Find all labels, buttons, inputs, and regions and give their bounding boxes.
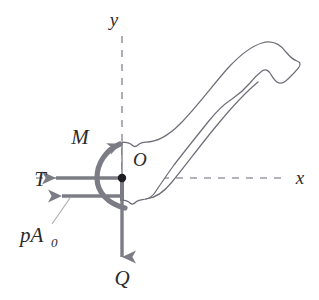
pressure-label-text: pA — [18, 223, 44, 247]
moment-label-M: M — [70, 125, 90, 149]
pressure-label-pA0: pA 0 — [18, 223, 58, 250]
hook-outline-path — [122, 42, 300, 204]
hook-body — [122, 42, 300, 204]
x-axis-label: x — [295, 167, 305, 188]
tension-label-T: T — [34, 167, 47, 191]
shear-label-Q: Q — [114, 266, 129, 290]
pressure-leader-line — [52, 198, 70, 224]
origin-point — [118, 174, 126, 182]
pressure-label-subscript: 0 — [51, 235, 58, 250]
figure-canvas: y x O M T pA 0 Q — [0, 0, 319, 300]
free-body-diagram: y x O M T pA 0 Q — [0, 0, 319, 300]
y-axis-label: y — [108, 9, 119, 30]
origin-label: O — [133, 149, 147, 170]
